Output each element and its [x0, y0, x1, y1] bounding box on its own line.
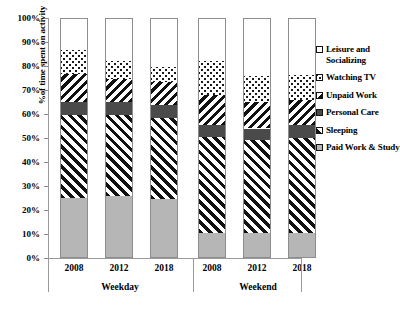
bar-weekend-2018 — [288, 18, 316, 258]
bar-segment-leisure-and-socializing — [244, 19, 270, 76]
legend-item: Personal Care — [316, 107, 400, 118]
dark-solid-swatch — [316, 109, 323, 116]
x-tick-label: 2008 — [190, 263, 234, 273]
plot-area — [48, 18, 300, 258]
bar-segment-leisure-and-socializing — [289, 19, 315, 75]
y-tick-label: 70% — [22, 85, 40, 95]
bar-weekend-2008 — [198, 18, 226, 258]
legend-item: Unpaid Work — [316, 90, 400, 101]
bar-segment-personal-care — [289, 125, 315, 138]
bar-segment-watching-tv — [244, 76, 270, 102]
x-tick-label: 2018 — [142, 263, 186, 273]
legend-item: Sleeping — [316, 125, 400, 136]
legend-item: Leisure and Socializing — [316, 44, 400, 65]
stacked-bar-chart: %of time spent on activity 0%10%20%30%40… — [0, 0, 400, 312]
bar-segment-personal-care — [244, 129, 270, 141]
bar-segment-watching-tv — [199, 61, 225, 96]
diagonal-down-swatch — [316, 92, 323, 99]
bar-segment-paid-work-study — [244, 233, 270, 257]
legend-item: Paid Work & Study — [316, 142, 400, 153]
x-tick-label: 2008 — [52, 263, 96, 273]
bar-segment-personal-care — [106, 102, 132, 115]
bar-segment-sleeping — [289, 138, 315, 233]
y-tick-label: 30% — [22, 181, 40, 191]
legend-label: Unpaid Work — [326, 90, 377, 101]
bar-segment-paid-work-study — [61, 198, 87, 258]
bar-segment-sleeping — [151, 118, 177, 199]
y-axis-tick-labels: 0%10%20%30%40%50%60%70%80%90%100% — [0, 0, 46, 312]
chart-legend: Leisure and SocializingWatching TVUnpaid… — [316, 44, 400, 160]
y-tick-label: 40% — [22, 157, 40, 167]
bar-segment-sleeping — [199, 137, 225, 233]
x-axis-line — [48, 258, 301, 259]
legend-label: Watching TV — [326, 72, 376, 83]
y-tick-label: 80% — [22, 61, 40, 71]
bar-weekday-2012 — [105, 18, 133, 258]
legend-item: Watching TV — [316, 72, 400, 83]
bar-segment-watching-tv — [151, 67, 177, 82]
bar-segment-paid-work-study — [289, 233, 315, 257]
bar-segment-personal-care — [61, 102, 87, 115]
checkerboard-swatch — [316, 74, 323, 81]
bar-segment-leisure-and-socializing — [151, 19, 177, 67]
y-tick-label: 100% — [18, 13, 41, 23]
bar-weekday-2018 — [150, 18, 178, 258]
legend-label: Paid Work & Study — [326, 142, 400, 153]
white-swatch — [316, 46, 323, 53]
diagonal-up-swatch — [316, 127, 323, 134]
bar-segment-unpaid-work — [151, 82, 177, 105]
y-tick-label: 20% — [22, 205, 40, 215]
group-label-weekday: Weekday — [60, 282, 180, 292]
legend-label: Personal Care — [326, 107, 379, 118]
bar-segment-paid-work-study — [106, 196, 132, 257]
bar-segment-leisure-and-socializing — [199, 19, 225, 61]
y-tick-label: 10% — [22, 229, 40, 239]
group-divider — [193, 258, 194, 292]
bar-segment-personal-care — [199, 125, 225, 137]
bar-segment-leisure-and-socializing — [106, 19, 132, 61]
bar-segment-unpaid-work — [199, 95, 225, 125]
bar-segment-sleeping — [106, 115, 132, 196]
bar-segment-watching-tv — [106, 61, 132, 79]
bar-segment-watching-tv — [289, 75, 315, 100]
x-tick-label: 2012 — [235, 263, 279, 273]
bar-segment-sleeping — [244, 140, 270, 233]
bar-segment-unpaid-work — [244, 102, 270, 128]
bar-segment-sleeping — [61, 115, 87, 197]
bar-segment-paid-work-study — [151, 199, 177, 257]
bar-segment-unpaid-work — [289, 100, 315, 125]
x-tick-label: 2018 — [280, 263, 324, 273]
bar-segment-personal-care — [151, 105, 177, 118]
bar-segment-watching-tv — [61, 50, 87, 74]
x-tick-label: 2012 — [97, 263, 141, 273]
group-divider — [48, 258, 49, 292]
legend-label: Sleeping — [326, 125, 357, 136]
bar-segment-unpaid-work — [61, 74, 87, 103]
y-tick-label: 0% — [27, 253, 41, 263]
y-tick-label: 60% — [22, 109, 40, 119]
bar-segment-leisure-and-socializing — [61, 19, 87, 50]
bar-segment-unpaid-work — [106, 79, 132, 103]
group-label-weekend: Weekend — [198, 282, 318, 292]
y-tick-label: 90% — [22, 37, 40, 47]
gray-solid-swatch — [316, 144, 323, 151]
legend-label: Leisure and Socializing — [326, 44, 400, 65]
y-tick-label: 50% — [22, 133, 40, 143]
bar-segment-paid-work-study — [199, 233, 225, 257]
bar-weekday-2008 — [60, 18, 88, 258]
bar-weekend-2012 — [243, 18, 271, 258]
